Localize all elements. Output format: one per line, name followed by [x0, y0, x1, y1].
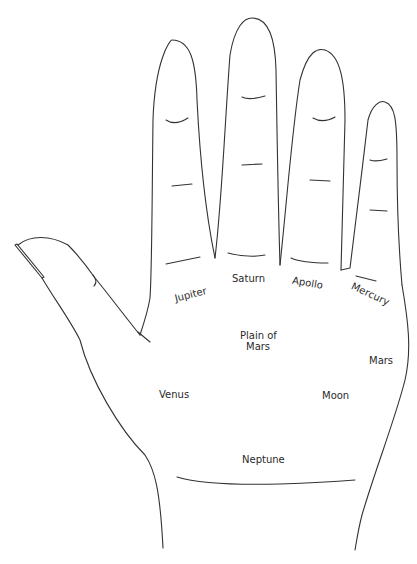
- crease-little-base: [356, 276, 376, 281]
- crease-little-1: [370, 159, 387, 161]
- crease-ring-2: [310, 180, 330, 181]
- label-apollo: Apollo: [291, 275, 323, 291]
- crease-middle-1: [242, 96, 265, 99]
- crease-index-2: [172, 184, 192, 186]
- crease-little-2: [370, 210, 387, 211]
- palm-right-edge: [355, 285, 409, 550]
- thumb-base-line: [138, 332, 150, 342]
- crease-middle-2: [242, 164, 262, 165]
- thumb-upper-edge: [18, 238, 140, 336]
- label-mercury: Mercury: [350, 280, 391, 307]
- crease-ring-base: [291, 258, 328, 263]
- little-finger-outline: [341, 102, 402, 285]
- crease-ring-1: [313, 117, 335, 121]
- label-venus: Venus: [159, 389, 189, 400]
- label-neptune: Neptune: [242, 454, 285, 465]
- label-plain-of-mars-1: Plain of: [240, 330, 277, 341]
- crease-middle-base: [228, 253, 265, 256]
- label-plain-of-mars-2: Mars: [246, 341, 270, 352]
- label-jupiter: Jupiter: [173, 285, 209, 304]
- thumb-nail: [15, 244, 44, 278]
- crease-index-base: [166, 257, 200, 264]
- ring-finger-outline: [280, 49, 345, 270]
- label-saturn: Saturn: [232, 273, 265, 284]
- label-mars: Mars: [369, 355, 393, 366]
- palm-diagram: Jupiter Saturn Apollo Mercury Plain of M…: [0, 0, 417, 564]
- crease-index-1: [166, 118, 188, 122]
- label-moon: Moon: [322, 390, 349, 401]
- wrist-crease: [177, 477, 355, 484]
- middle-finger-outline: [215, 18, 280, 265]
